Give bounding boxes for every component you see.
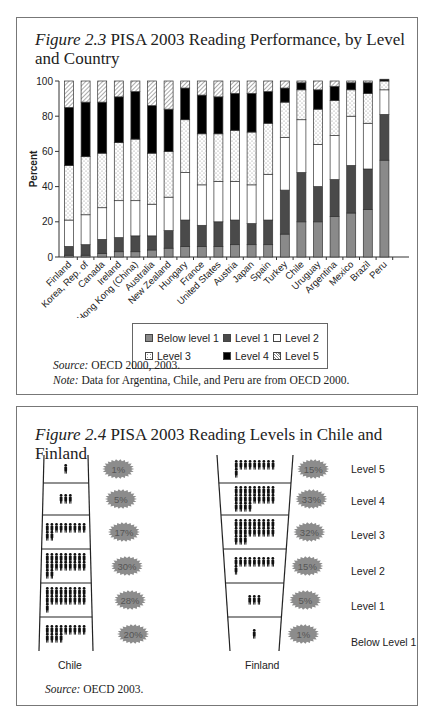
legend-swatch (223, 334, 231, 342)
svg-text:32%: 32% (300, 527, 320, 538)
level-label-level-4: Level 4 (351, 495, 385, 507)
source-text: OECD 2003. (80, 683, 143, 695)
legend-label: Level 5 (285, 350, 319, 362)
bar-turkey (280, 81, 289, 257)
level-label-level-3: Level 3 (351, 529, 385, 541)
legend-item-below-level-1: Below level 1 (145, 332, 219, 344)
source-note: Source: OECD 2000, 2003. (53, 359, 180, 371)
bar-brazil (363, 81, 372, 257)
legend-swatch (273, 334, 281, 342)
svg-text:100: 100 (36, 76, 53, 87)
bar-uruguay (314, 81, 323, 257)
bar-hungary (181, 81, 190, 257)
legend-swatch (223, 352, 231, 360)
legend-item-level-5: Level 5 (273, 350, 319, 362)
level-label-below-level-1: Below Level 1 (351, 636, 416, 648)
source-text: OECD 2000, 2003. (88, 359, 180, 371)
figure-2-4-panel: Figure 2.4 PISA 2003 Reading Levels in C… (16, 406, 418, 706)
note-label: Note: (53, 374, 79, 386)
stacked-bar-chart: 020406080100Percent FinlandKorea, Rep. o… (17, 18, 419, 318)
level-label-level-5: Level 5 (351, 463, 385, 475)
bar-ireland (114, 81, 123, 257)
source-label: Source: (45, 683, 80, 695)
legend-swatch (273, 352, 281, 360)
svg-text:28%: 28% (121, 595, 141, 606)
svg-text:1%: 1% (296, 629, 310, 640)
svg-text:Percent: Percent (28, 150, 39, 187)
bar-united-states (214, 81, 223, 257)
svg-text:33%: 33% (302, 494, 322, 505)
bar-argentina (330, 81, 339, 257)
svg-text:5%: 5% (114, 494, 128, 505)
figure-2-3-panel: Figure 2.3 PISA 2003 Reading Performance… (16, 17, 418, 395)
bar-chile (297, 81, 306, 257)
bar-peru (380, 79, 389, 257)
svg-text:0: 0 (47, 252, 53, 263)
svg-text:17%: 17% (114, 527, 134, 538)
bar-austria (231, 81, 240, 257)
svg-text:30%: 30% (117, 561, 137, 572)
svg-text:5%: 5% (298, 595, 312, 606)
source-label: Source: (53, 359, 88, 371)
svg-text:20: 20 (42, 216, 54, 227)
bar-canada (98, 81, 107, 257)
bar-spain (264, 81, 273, 257)
chile-label: Chile (58, 659, 82, 671)
bar-france (197, 81, 206, 257)
note-text: Data for Argentina, Chile, and Peru are … (79, 374, 350, 386)
level-label-level-2: Level 2 (351, 565, 385, 577)
bar-japan (247, 81, 256, 257)
svg-text:Peru: Peru (367, 259, 389, 281)
bar-finland (65, 81, 74, 257)
bar-new-zealand (164, 81, 173, 257)
ladder: 1%5%17%30%28%20% (39, 455, 149, 651)
ladder: 15%33%32%15%5%1% (217, 455, 329, 651)
svg-text:40: 40 (42, 181, 54, 192)
legend-item-level-4: Level 4 (223, 350, 269, 362)
bar-korea-rep-of (81, 81, 90, 257)
bar-australia (148, 81, 157, 257)
svg-text:20%: 20% (124, 629, 144, 640)
legend-label: Level 2 (285, 332, 319, 344)
bar-hong-kong-china- (131, 81, 140, 257)
svg-text:15%: 15% (298, 561, 318, 572)
legend-label: Below level 1 (157, 332, 219, 344)
legend-swatch (145, 334, 153, 342)
source-note: Source: OECD 2003. (45, 683, 143, 695)
bar-mexico (347, 81, 356, 257)
svg-text:1%: 1% (111, 464, 125, 475)
legend-label: Level 4 (235, 350, 269, 362)
data-note: Note: Data for Argentina, Chile, and Per… (53, 374, 350, 386)
svg-text:15%: 15% (304, 464, 324, 475)
finland-label: Finland (245, 659, 279, 671)
legend-item-level-1: Level 1 (223, 332, 269, 344)
svg-text:80: 80 (42, 111, 54, 122)
level-label-level-1: Level 1 (351, 600, 385, 612)
legend-item-level-2: Level 2 (273, 332, 319, 344)
svg-text:60: 60 (42, 146, 54, 157)
legend-label: Level 1 (235, 332, 269, 344)
